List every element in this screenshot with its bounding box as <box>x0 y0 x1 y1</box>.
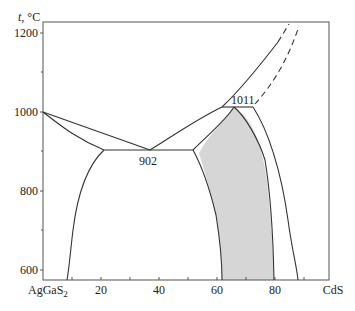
x-label-right-compound: CdS <box>323 283 344 297</box>
x-label-40: 40 <box>153 283 165 297</box>
liquidus-right-dashed <box>278 24 289 42</box>
liquidus-left <box>43 112 150 150</box>
y-label-1000: 1000 <box>14 105 38 119</box>
y-label-1200: 1200 <box>14 26 38 40</box>
y-axis-title: t, °C <box>18 10 40 24</box>
solidus-left <box>43 112 104 150</box>
x-label-60: 60 <box>211 283 223 297</box>
peritectic-label: 1011 <box>231 93 255 107</box>
x-label-80: 80 <box>269 283 281 297</box>
y-label-800: 800 <box>20 184 38 198</box>
solidus-right-dashed <box>255 26 299 104</box>
solvus-alpha <box>67 150 104 280</box>
phase-diagram: 902 1011 t, °C 1200 1000 800 600 AgGaS2 … <box>0 0 355 311</box>
eutectic-label: 902 <box>139 154 157 168</box>
y-label-600: 600 <box>20 263 38 277</box>
x-label-left-compound: AgGaS2 <box>28 283 68 299</box>
x-label-20: 20 <box>95 283 107 297</box>
plot-frame <box>43 22 329 280</box>
